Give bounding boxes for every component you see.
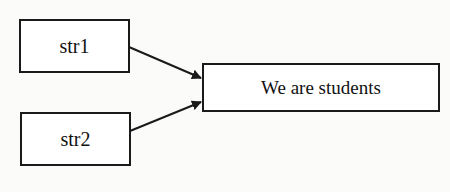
diagram-canvas: str1 str2 We are students bbox=[0, 0, 450, 192]
node-result: We are students bbox=[202, 63, 440, 112]
arrow-str2-to-result bbox=[130, 102, 201, 131]
arrow-str1-to-result bbox=[129, 47, 201, 78]
node-str2: str2 bbox=[20, 112, 131, 166]
node-str2-label: str2 bbox=[61, 128, 91, 151]
node-str1: str1 bbox=[19, 19, 130, 73]
node-result-label: We are students bbox=[261, 77, 381, 99]
node-str1-label: str1 bbox=[60, 35, 90, 58]
